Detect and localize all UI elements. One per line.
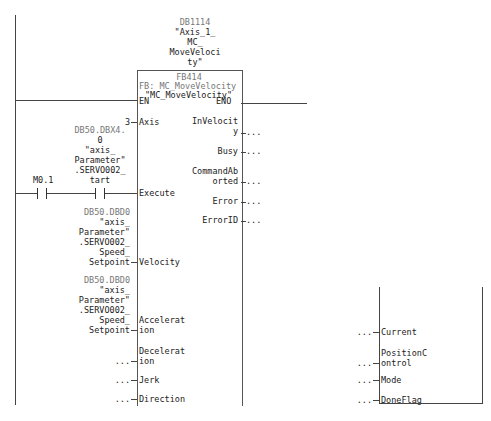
second-input-positioncontrol-2: ontrol (381, 358, 412, 369)
errorid-value[interactable]: ... (246, 215, 261, 226)
second-input-doneflag: DoneFlag (381, 395, 422, 406)
error-value[interactable]: ... (246, 196, 261, 207)
velocity-wire (131, 262, 137, 263)
input-direction: Direction (139, 394, 185, 405)
deceleration-value[interactable]: ... (110, 356, 130, 367)
velocity-symbol-5: Setpoint (60, 257, 130, 268)
eno-pin: ENO (216, 96, 231, 107)
normally-open-contact-m0-1[interactable] (37, 188, 47, 199)
current-wire (373, 332, 379, 333)
positioncontrol-wire (373, 363, 379, 364)
mode-value[interactable]: ... (356, 375, 372, 386)
commandaborted-value[interactable]: ... (246, 176, 261, 187)
second-input-current: Current (381, 327, 417, 338)
deceleration-wire (131, 361, 137, 362)
input-axis: Axis (139, 117, 159, 128)
output-commandaborted-2: orted (170, 176, 238, 187)
jerk-wire (131, 380, 137, 381)
second-block-bottom-edge (379, 403, 483, 404)
normally-open-contact-db50-dbx4-0[interactable] (95, 188, 105, 199)
contact-1-address[interactable]: M0.1 (33, 175, 53, 186)
jerk-value[interactable]: ... (110, 375, 130, 386)
en-wire (15, 100, 137, 101)
instance-db-name-4: ty" (155, 57, 235, 68)
output-busy: Busy (170, 146, 238, 157)
direction-value[interactable]: ... (110, 394, 130, 405)
current-value[interactable]: ... (356, 327, 372, 338)
execute-wire (15, 193, 137, 194)
second-block-right-edge (482, 287, 483, 403)
input-velocity: Velocity (139, 257, 180, 268)
doneflag-value[interactable]: ... (356, 395, 372, 406)
second-block-left-edge[interactable] (379, 287, 380, 403)
axis-wire (131, 122, 137, 123)
positioncontrol-value[interactable]: ... (356, 358, 372, 369)
output-error: Error (170, 196, 238, 207)
invelocity-value[interactable]: ... (246, 127, 261, 138)
input-deceleration-2: ion (139, 356, 154, 367)
left-power-rail (15, 15, 16, 405)
mode-wire (373, 380, 379, 381)
acceleration-symbol-5: Setpoint (60, 325, 130, 336)
input-jerk: Jerk (139, 375, 159, 386)
contact-2-symbol-5: tart (70, 175, 130, 186)
eno-wire (241, 103, 307, 104)
direction-wire (131, 399, 137, 400)
en-pin: EN (139, 96, 149, 107)
busy-value[interactable]: ... (246, 146, 261, 157)
input-acceleration-2: ion (139, 325, 154, 336)
acceleration-wire (131, 330, 137, 331)
doneflag-wire (373, 400, 379, 401)
output-errorid: ErrorID (170, 215, 238, 226)
second-input-mode: Mode (381, 375, 401, 386)
output-invelocity-2: y (170, 126, 238, 137)
